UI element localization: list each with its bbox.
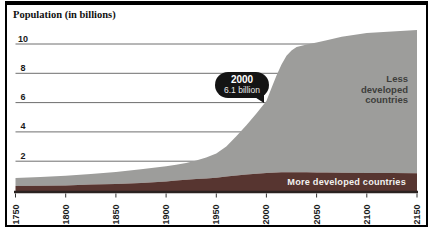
less-developed-area xyxy=(16,30,418,186)
data-callout: 2000 6.1 billion xyxy=(215,72,269,98)
x-axis-labels: 175018001850190019502000205021002150 xyxy=(11,194,423,225)
y-axis-tick-label: 8 xyxy=(20,63,25,73)
area-chart-canvas: 2468101750180018501900195020002050210021… xyxy=(0,0,432,229)
y-axis-tick-label: 6 xyxy=(20,92,25,102)
x-axis-tick-label: 1750 xyxy=(11,204,21,224)
x-axis-tick-label: 1900 xyxy=(161,204,171,224)
x-axis-tick-label: 1950 xyxy=(211,204,221,224)
x-axis-tick-label: 2100 xyxy=(362,204,372,224)
chart-title: Population (in billions) xyxy=(13,9,116,20)
x-axis-tick-label: 1850 xyxy=(111,204,121,224)
y-axis-labels: 246810 xyxy=(18,34,28,161)
y-axis-tick-label: 10 xyxy=(18,34,28,44)
callout-value: 6.1 billion xyxy=(215,86,269,95)
x-axis-tick-label: 2000 xyxy=(261,204,271,224)
less-developed-label: Less developed countries xyxy=(338,74,408,106)
y-axis-tick-label: 2 xyxy=(20,151,25,161)
x-axis-tick-label: 1800 xyxy=(61,204,71,224)
x-axis-tick-label: 2050 xyxy=(312,204,322,224)
population-chart: 2468101750180018501900195020002050210021… xyxy=(0,0,432,229)
y-axis-tick-label: 4 xyxy=(20,121,25,131)
x-axis-tick-label: 2150 xyxy=(412,204,422,224)
more-developed-label: More developed countries xyxy=(287,177,406,187)
